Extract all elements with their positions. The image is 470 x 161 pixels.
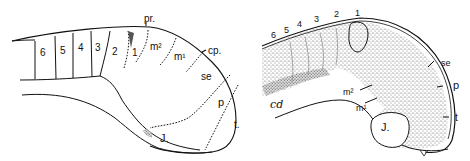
label-r-seg-6: 6: [271, 30, 276, 40]
right-embryo: [262, 18, 455, 156]
label-cp: cp.: [208, 45, 221, 56]
label-seg-4: 4: [78, 42, 84, 53]
label-r-seg-3: 3: [314, 14, 319, 24]
label-seg-6: 6: [40, 47, 46, 58]
embryo-diagram: 6 5 4 3 2 1 pr. m² m¹ cp. se p t. J.: [0, 0, 470, 161]
label-t: t.: [234, 119, 240, 130]
label-seg-5: 5: [60, 45, 66, 56]
label-r-se: se: [441, 58, 451, 68]
label-r-seg-4: 4: [297, 19, 302, 29]
label-p: p: [218, 96, 224, 108]
label-pr: pr.: [144, 13, 155, 24]
label-r-m2: m²: [343, 87, 354, 97]
label-r-seg-2: 2: [334, 9, 339, 19]
label-se: se: [201, 71, 212, 82]
label-r-t: t: [455, 112, 458, 123]
label-r-seg-5: 5: [284, 25, 289, 35]
label-m2: m²: [150, 41, 162, 52]
label-r-seg-1: 1: [355, 8, 360, 18]
figure: 6 5 4 3 2 1 pr. m² m¹ cp. se p t. J.: [0, 0, 470, 161]
label-r-j: J.: [381, 121, 390, 133]
label-seg-1: 1: [132, 47, 138, 58]
label-seg-3: 3: [95, 42, 101, 53]
label-j: J.: [160, 132, 169, 144]
label-r-cd: cd: [270, 98, 283, 111]
label-m1: m¹: [174, 51, 186, 62]
left-embryo: [12, 22, 238, 153]
label-r-m1: m¹: [356, 103, 367, 113]
label-r-p: p: [453, 79, 459, 91]
label-seg-2: 2: [112, 46, 118, 57]
